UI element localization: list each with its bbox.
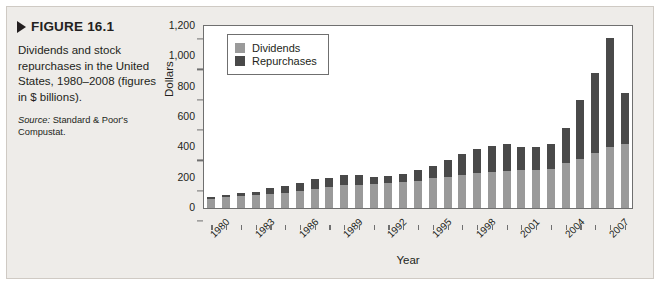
bar-2005 — [576, 100, 584, 208]
bar-1997 — [458, 154, 466, 208]
bar-2002 — [532, 147, 540, 208]
legend-item-repurchases: Repurchases — [235, 55, 317, 67]
x-tick-mark — [241, 225, 242, 230]
bar-segment-repurchases — [414, 170, 422, 181]
y-tick-mark — [197, 220, 203, 221]
bar-segment-repurchases — [458, 154, 466, 175]
bar-segment-dividends — [311, 189, 319, 208]
x-tick-mark — [315, 225, 316, 230]
x-tick-mark — [551, 225, 552, 230]
bar-segment-dividends — [503, 171, 511, 208]
chart-area: Dollars 02004006008001,0001,200 19801983… — [165, 11, 651, 275]
bar-1980 — [207, 197, 215, 208]
x-tick-mark — [359, 225, 360, 230]
bar-2003 — [547, 144, 555, 208]
bar-1985 — [281, 186, 289, 208]
bar-1982 — [237, 193, 245, 208]
bar-2008 — [621, 93, 629, 208]
bar-1986 — [296, 183, 304, 208]
bar-2001 — [517, 147, 525, 208]
x-tick-mark — [285, 225, 286, 230]
bar-1999 — [488, 146, 496, 208]
bar-segment-repurchases — [355, 175, 363, 185]
legend-label-repurchases: Repurchases — [252, 55, 317, 67]
figure-header: FIGURE 16.1 — [17, 19, 165, 34]
x-tick-label: 1989 — [341, 216, 365, 240]
triangle-bullet-icon — [17, 21, 26, 33]
x-tick-mark — [492, 225, 493, 230]
caption-column: FIGURE 16.1 Dividends and stock repurcha… — [15, 15, 165, 265]
bar-segment-repurchases — [296, 183, 304, 191]
bar-segment-dividends — [281, 193, 289, 208]
bar-segment-dividends — [384, 183, 392, 208]
bar-segment-repurchases — [591, 73, 599, 153]
bar-1998 — [473, 149, 481, 208]
y-tick-label: 600 — [177, 110, 195, 122]
bar-2000 — [503, 144, 511, 208]
legend-swatch-repurchases — [235, 56, 245, 66]
chart-legend: Dividends Repurchases — [227, 34, 329, 75]
y-tick-label: 200 — [177, 171, 195, 183]
bar-segment-dividends — [237, 196, 245, 208]
y-tick-label: 400 — [177, 140, 195, 152]
x-tick-mark — [595, 225, 596, 230]
x-tick-mark — [462, 225, 463, 230]
x-tick-mark — [418, 225, 419, 230]
bar-segment-dividends — [547, 169, 555, 208]
bar-segment-dividends — [340, 185, 348, 208]
bar-segment-repurchases — [399, 174, 407, 182]
bar-segment-repurchases — [384, 176, 392, 183]
bar-1983 — [252, 192, 260, 208]
bar-segment-dividends — [222, 197, 230, 208]
bar-segment-repurchases — [444, 160, 452, 177]
bar-segment-dividends — [207, 199, 215, 208]
bar-1993 — [399, 174, 407, 208]
y-tick-label: 1,000 — [169, 49, 195, 61]
figure-card: FIGURE 16.1 Dividends and stock repurcha… — [6, 6, 654, 279]
bar-segment-dividends — [444, 177, 452, 208]
bar-1987 — [311, 179, 319, 208]
x-tick-label: 1992 — [385, 216, 409, 240]
bar-segment-repurchases — [488, 146, 496, 173]
x-tick-label: 2004 — [563, 216, 587, 240]
x-tick-label: 1986 — [297, 216, 321, 240]
bar-segment-repurchases — [562, 128, 570, 163]
bar-segment-repurchases — [621, 93, 629, 145]
figure-caption: Dividends and stock repurchases in the U… — [18, 43, 158, 105]
bar-segment-dividends — [473, 173, 481, 208]
x-tick-label: 2007 — [607, 216, 631, 240]
source-prefix: Source: — [18, 115, 50, 125]
figure-label: FIGURE 16.1 — [31, 19, 114, 34]
bar-1995 — [429, 166, 437, 208]
x-tick-label: 1995 — [430, 216, 454, 240]
bar-segment-repurchases — [311, 179, 319, 189]
bar-segment-repurchases — [547, 144, 555, 168]
y-axis-ticks: 02004006008001,0001,200 — [165, 25, 201, 209]
bar-segment-dividends — [325, 187, 333, 208]
bar-segment-dividends — [562, 163, 570, 209]
legend-item-dividends: Dividends — [235, 42, 317, 54]
bar-segment-dividends — [532, 170, 540, 208]
x-tick-mark — [507, 225, 508, 230]
bar-segment-dividends — [266, 194, 274, 208]
bar-1989 — [340, 175, 348, 208]
bar-1996 — [444, 160, 452, 208]
bar-1981 — [222, 195, 230, 208]
bar-1988 — [325, 178, 333, 208]
bar-segment-repurchases — [576, 100, 584, 159]
bar-segment-repurchases — [281, 186, 289, 193]
x-tick-mark — [580, 225, 581, 230]
x-tick-mark — [329, 225, 330, 230]
x-tick-label: 1983 — [253, 216, 277, 240]
bar-1992 — [384, 176, 392, 208]
bar-segment-dividends — [621, 144, 629, 208]
bar-segment-dividends — [355, 185, 363, 209]
legend-label-dividends: Dividends — [252, 42, 300, 54]
bar-segment-repurchases — [429, 166, 437, 179]
bar-segment-dividends — [414, 181, 422, 208]
bar-segment-dividends — [591, 153, 599, 208]
x-tick-mark — [536, 225, 537, 230]
bar-segment-dividends — [458, 175, 466, 208]
bar-segment-repurchases — [503, 144, 511, 171]
bar-2004 — [562, 128, 570, 208]
